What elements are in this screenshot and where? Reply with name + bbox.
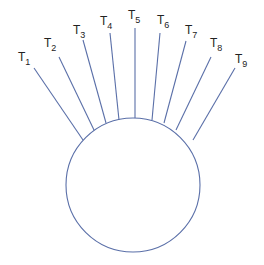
terminal-label-1: T1 (18, 50, 30, 67)
terminal-label-subscript: 3 (80, 30, 85, 40)
terminal-label-8: T8 (210, 36, 222, 53)
terminal-label-subscript: 4 (107, 21, 112, 31)
terminal-label-subscript: 9 (242, 59, 247, 69)
terminal-label-2: T2 (44, 36, 56, 53)
terminal-label-5: T5 (128, 8, 140, 25)
star-diagram: T1T2T3T4T5T6T7T8T9 (0, 0, 264, 265)
terminal-label-6: T6 (157, 13, 169, 30)
terminal-label-subscript: 8 (217, 43, 222, 53)
terminal-lines (34, 28, 235, 140)
terminal-label-subscript: 6 (164, 20, 169, 30)
terminal-label-4: T4 (100, 14, 112, 31)
hub-circle (66, 118, 200, 252)
terminal-label-subscript: 2 (51, 43, 56, 53)
terminal-label-subscript: 1 (25, 57, 30, 67)
terminal-label-7: T7 (185, 23, 197, 40)
terminal-line-1 (34, 68, 83, 140)
terminal-line-3 (83, 40, 106, 123)
terminal-label-9: T9 (235, 52, 247, 69)
terminal-line-2 (59, 57, 94, 130)
terminal-line-4 (110, 33, 119, 120)
terminal-line-7 (164, 41, 186, 123)
terminal-labels: T1T2T3T4T5T6T7T8T9 (18, 8, 247, 69)
terminal-label-subscript: 7 (192, 30, 197, 40)
terminal-line-9 (193, 68, 235, 140)
terminal-label-subscript: 5 (135, 15, 140, 25)
terminal-line-6 (152, 33, 160, 120)
terminal-label-3: T3 (73, 23, 85, 40)
